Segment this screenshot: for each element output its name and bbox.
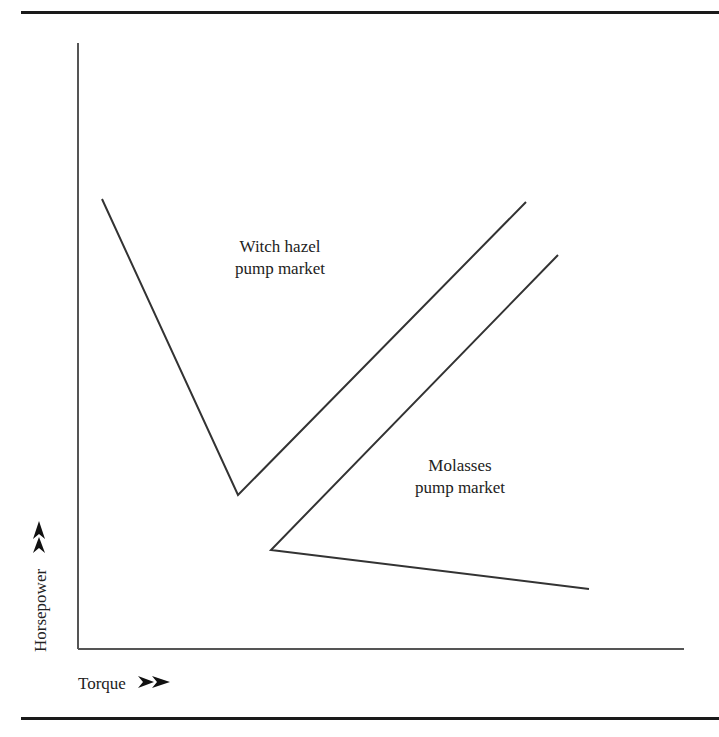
bottom-rule: [21, 717, 719, 720]
molasses-market-label: Molasses pump market: [380, 455, 540, 499]
x-axis-label: Torque: [78, 674, 172, 694]
molasses-label-line2: pump market: [380, 477, 540, 499]
double-arrow-right-icon: [136, 674, 172, 694]
witch-hazel-label-line1: Witch hazel: [200, 236, 360, 258]
witch-hazel-label-line2: pump market: [200, 258, 360, 280]
y-axis-label: Horsepower: [30, 472, 52, 652]
double-arrow-up-icon: [31, 519, 51, 555]
x-axis-title: Torque: [78, 674, 126, 694]
market-map-diagram: [0, 0, 719, 737]
molasses-label-line1: Molasses: [380, 455, 540, 477]
molasses-boundary: [271, 255, 589, 589]
witch-hazel-market-label: Witch hazel pump market: [200, 236, 360, 280]
y-axis-title: Horsepower: [31, 569, 51, 652]
